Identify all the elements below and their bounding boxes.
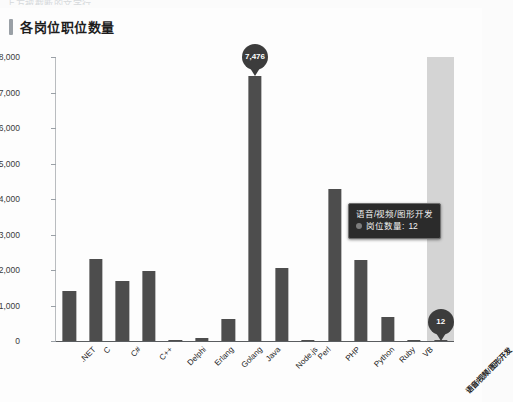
chart-card: 各岗位职位数量 01,0002,0003,0004,0005,0006,0007…	[0, 8, 482, 402]
bar-slot[interactable]	[136, 57, 163, 341]
title-accent-bar	[9, 19, 13, 35]
bar-slot[interactable]	[83, 57, 110, 341]
bar-hover-highlight	[427, 57, 454, 341]
value-marker-label: 7,476	[245, 52, 265, 61]
bar-slot[interactable]	[427, 57, 454, 341]
page-title: 各岗位职位数量	[20, 17, 115, 36]
bar-series	[56, 57, 454, 341]
value-marker-label: 12	[436, 317, 445, 326]
y-axis-tick-label: 2,000	[0, 265, 20, 275]
bar-slot[interactable]	[401, 57, 428, 341]
x-axis-tick-label: Golang	[240, 345, 265, 370]
bar-slot[interactable]	[268, 57, 295, 341]
x-axis-tick-label: PHP	[343, 345, 361, 363]
bar[interactable]	[116, 281, 129, 341]
y-axis-tick-label: 4,000	[0, 194, 20, 204]
value-marker-pin: 12	[428, 309, 454, 335]
y-axis-tick-label: 3,000	[0, 230, 20, 240]
bar[interactable]	[248, 76, 261, 341]
tooltip-title: 语音/视频/图形开发	[356, 208, 433, 220]
y-axis-tick-label: 0	[15, 336, 20, 346]
x-axis-tick-label: Java	[264, 345, 282, 363]
bar-slot[interactable]	[321, 57, 348, 341]
bar[interactable]	[301, 340, 314, 341]
bar[interactable]	[89, 259, 102, 341]
bar[interactable]	[222, 319, 235, 341]
y-axis-tick-label: 7,000	[0, 88, 20, 98]
y-axis-tick-mark	[51, 341, 56, 342]
tooltip-value-row: 岗位数量: 12	[356, 220, 433, 232]
bar-slot[interactable]	[162, 57, 189, 341]
x-axis-tick-label: C#	[129, 345, 143, 359]
bar-slot[interactable]	[295, 57, 322, 341]
tooltip-series-dot-icon	[356, 223, 362, 229]
x-axis-tick-label: 语音/视频/图形开发	[462, 345, 512, 395]
tooltip-series-label: 岗位数量:	[366, 220, 404, 232]
bar-slot[interactable]	[215, 57, 242, 341]
y-axis-tick-label: 5,000	[0, 159, 20, 169]
x-axis-tick-label: Perl	[316, 345, 332, 361]
chart-tooltip: 语音/视频/图形开发 岗位数量: 12	[348, 203, 441, 239]
bar[interactable]	[275, 268, 288, 341]
y-axis-tick-label: 8,000	[0, 52, 20, 62]
tooltip-series-value: 12	[408, 220, 417, 232]
x-axis-tick-label: C	[101, 345, 111, 355]
x-axis-tick-label: .NET	[79, 345, 98, 364]
x-axis-tick-label: Python	[372, 345, 396, 369]
bar[interactable]	[354, 260, 367, 341]
bar[interactable]	[328, 189, 341, 341]
bar-slot[interactable]	[109, 57, 136, 341]
clipped-top-text: 上方被截断的文字行	[6, 0, 92, 5]
bar[interactable]	[63, 291, 76, 341]
bar-slot[interactable]	[56, 57, 83, 341]
x-axis-tick-label: C++	[157, 345, 174, 362]
x-axis-tick-label: VB	[421, 345, 435, 359]
y-axis-tick-label: 1,000	[0, 301, 20, 311]
bar-slot[interactable]	[242, 57, 269, 341]
bar-slot[interactable]	[348, 57, 375, 341]
bar[interactable]	[381, 317, 394, 341]
bar[interactable]	[408, 340, 421, 341]
bar[interactable]	[195, 338, 208, 341]
bar[interactable]	[142, 271, 155, 341]
chart-title-row: 各岗位职位数量	[9, 17, 115, 36]
value-marker-pin: 7,476	[242, 44, 268, 70]
bar-slot[interactable]	[374, 57, 401, 341]
x-axis-tick-label: Delphi	[186, 345, 208, 367]
x-axis-tick-label: Node.js	[293, 345, 319, 371]
y-axis-tick-label: 6,000	[0, 123, 20, 133]
x-axis-tick-label: Erlang	[213, 345, 236, 368]
bar-slot[interactable]	[189, 57, 216, 341]
x-axis-tick-label: Ruby	[397, 345, 417, 365]
x-axis-line	[55, 341, 454, 342]
bar[interactable]	[169, 340, 182, 341]
